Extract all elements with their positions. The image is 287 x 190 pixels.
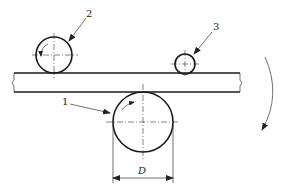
break-line-right <box>240 73 242 92</box>
label-3: 3 <box>213 21 219 32</box>
strip <box>12 73 242 92</box>
leader-line-3 <box>194 32 212 54</box>
roller-diagram: 2 3 1 D <box>0 0 287 190</box>
label-1: 1 <box>62 96 68 107</box>
leader-line-1 <box>70 104 110 113</box>
leader-line-2 <box>69 18 86 41</box>
label-2: 2 <box>86 8 92 19</box>
rotation-arrow-icon <box>122 102 134 110</box>
dimension-label: D <box>137 165 146 176</box>
roller-3: 3 <box>171 21 219 76</box>
rotation-direction-arrow-icon <box>262 57 273 130</box>
roller-1: 1 <box>62 84 180 160</box>
rotation-arrow-icon <box>41 44 48 56</box>
roller-2: 2 <box>32 8 92 78</box>
break-line-left <box>12 73 14 92</box>
